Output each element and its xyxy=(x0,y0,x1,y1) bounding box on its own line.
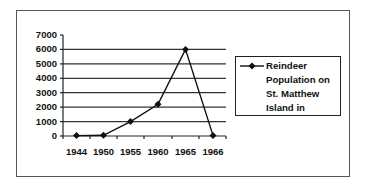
data-point-1950 xyxy=(100,132,107,139)
x-tick-label: 1965 xyxy=(172,147,199,157)
data-point-1965 xyxy=(182,46,189,53)
legend-label: Reindeer Population on St. Matthew Islan… xyxy=(266,59,340,115)
data-point-1944 xyxy=(73,132,80,139)
data-point-1966 xyxy=(210,132,217,139)
x-tick-label: 1944 xyxy=(63,147,90,157)
y-tick-label: 7000 xyxy=(21,30,57,40)
y-tick-label: 3000 xyxy=(21,88,57,98)
gridlines xyxy=(63,49,226,121)
legend: Reindeer Population on St. Matthew Islan… xyxy=(235,56,341,116)
y-tick-label: 0 xyxy=(21,131,57,141)
y-tick-label: 6000 xyxy=(21,44,57,54)
y-tick-label: 5000 xyxy=(21,59,57,69)
x-axis xyxy=(63,136,226,139)
y-axis xyxy=(60,35,63,136)
y-tick-label: 2000 xyxy=(21,102,57,112)
y-tick-label: 4000 xyxy=(21,73,57,83)
y-tick-label: 1000 xyxy=(21,117,57,127)
x-tick-label: 1950 xyxy=(90,147,117,157)
data-point-1955 xyxy=(127,118,134,125)
x-tick-label: 1966 xyxy=(200,147,227,157)
x-tick-label: 1960 xyxy=(145,147,172,157)
legend-line-marker-icon xyxy=(240,62,264,70)
x-tick-label: 1955 xyxy=(117,147,144,157)
